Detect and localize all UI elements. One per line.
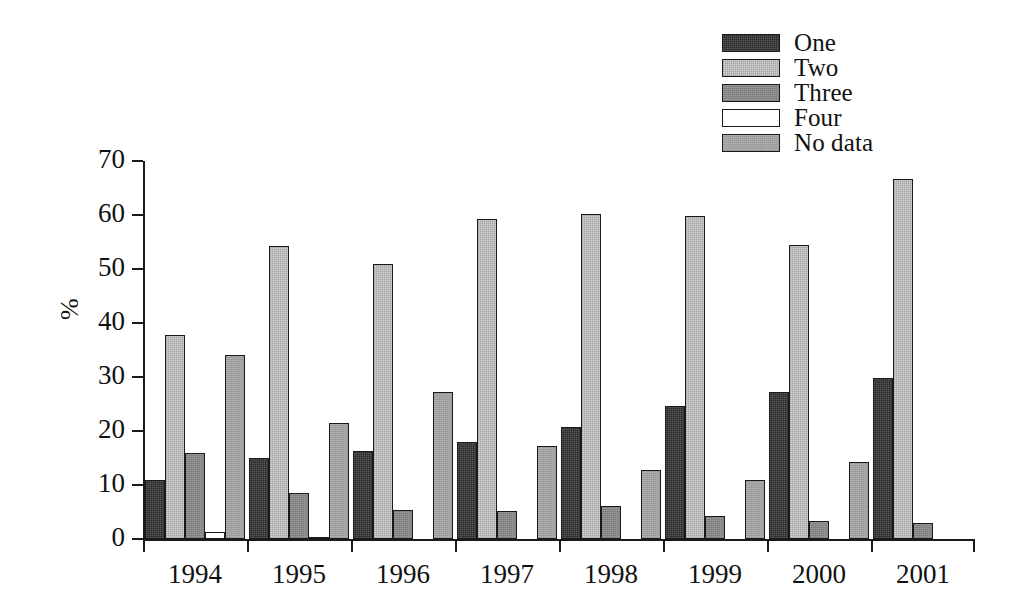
bar-1996-three	[393, 510, 413, 539]
legend-item-three[interactable]: Three	[722, 80, 873, 105]
x-tick-end	[973, 541, 975, 552]
swatch-no-data-icon	[722, 134, 780, 152]
x-tick-label: 1995	[247, 559, 351, 589]
swatch-one-icon	[722, 34, 780, 52]
x-tick-label: 1999	[663, 559, 767, 589]
y-tick-50	[132, 268, 143, 270]
y-tick-20	[132, 430, 143, 432]
bar-1994-three	[185, 453, 205, 539]
x-tick-label: 1996	[351, 559, 455, 589]
y-axis-title: %	[55, 298, 85, 320]
y-tick-label: 70	[65, 146, 125, 173]
bar-1994-no-data	[225, 355, 245, 539]
y-tick-label: 10	[65, 470, 125, 497]
y-tick-10	[132, 484, 143, 486]
bar-1998-no-data	[641, 470, 661, 539]
legend-item-two[interactable]: Two	[722, 55, 873, 80]
y-tick-label: 60	[65, 200, 125, 227]
y-tick-40	[132, 322, 143, 324]
bar-1995-four	[309, 537, 329, 539]
bar-2000-two	[789, 245, 809, 539]
bar-2000-three	[809, 521, 829, 539]
bar-1995-one	[249, 458, 269, 539]
x-tick-1997	[455, 541, 457, 552]
x-tick-label: 1997	[455, 559, 559, 589]
y-tick-label: 20	[65, 416, 125, 443]
legend-label: Four	[794, 105, 842, 130]
bar-1995-three	[289, 493, 309, 539]
bar-chart-figure: OneTwoThreeFourNo data 010203040506070 1…	[0, 0, 1026, 611]
legend-item-one[interactable]: One	[722, 30, 873, 55]
bar-1999-no-data	[745, 480, 765, 539]
chart-legend: OneTwoThreeFourNo data	[722, 30, 873, 155]
x-tick-label: 2001	[871, 559, 975, 589]
y-tick-70	[132, 160, 143, 162]
bar-1997-three	[497, 511, 517, 539]
x-tick-label: 1998	[559, 559, 663, 589]
legend-label: Three	[794, 80, 853, 105]
bar-1997-no-data	[537, 446, 557, 539]
bar-2000-no-data	[849, 462, 869, 539]
bar-1998-one	[561, 427, 581, 539]
swatch-two-icon	[722, 59, 780, 77]
bar-1997-two	[477, 219, 497, 539]
y-tick-0	[132, 538, 143, 540]
legend-label: No data	[794, 130, 873, 155]
bar-1998-three	[601, 506, 621, 539]
bar-2001-one	[873, 378, 893, 539]
legend-item-four[interactable]: Four	[722, 105, 873, 130]
bar-2001-two	[893, 179, 913, 539]
bar-1994-four	[205, 532, 225, 539]
y-tick-60	[132, 214, 143, 216]
bar-1997-one	[457, 442, 477, 539]
bar-1996-two	[373, 264, 393, 539]
bar-1999-three	[705, 516, 725, 539]
swatch-four-icon	[722, 109, 780, 127]
y-tick-label: 30	[65, 362, 125, 389]
legend-label: One	[794, 30, 836, 55]
y-tick-label: 50	[65, 254, 125, 281]
bar-2001-three	[913, 523, 933, 539]
bar-1995-two	[269, 246, 289, 539]
x-tick-1994	[143, 541, 145, 552]
x-tick-label: 2000	[767, 559, 871, 589]
x-tick-label: 1994	[143, 559, 247, 589]
y-tick-labels: 010203040506070	[65, 161, 125, 539]
plot-area: 010203040506070 199419951996199719981999…	[143, 161, 975, 539]
swatch-three-icon	[722, 84, 780, 102]
legend-item-no-data[interactable]: No data	[722, 130, 873, 155]
bar-1996-no-data	[433, 392, 453, 539]
bar-2000-one	[769, 392, 789, 539]
x-tick-2000	[767, 541, 769, 552]
bar-1999-two	[685, 216, 705, 539]
y-tick-label: 0	[65, 524, 125, 551]
x-tick-1995	[247, 541, 249, 552]
legend-label: Two	[794, 55, 838, 80]
y-tick-30	[132, 376, 143, 378]
x-tick-1998	[559, 541, 561, 552]
x-tick-1999	[663, 541, 665, 552]
bar-1995-no-data	[329, 423, 349, 539]
bar-1999-one	[665, 406, 685, 539]
bar-1998-two	[581, 214, 601, 539]
bar-1994-two	[165, 335, 185, 539]
x-tick-1996	[351, 541, 353, 552]
bar-1996-one	[353, 451, 373, 539]
bar-1994-one	[145, 480, 165, 539]
x-tick-2001	[871, 541, 873, 552]
